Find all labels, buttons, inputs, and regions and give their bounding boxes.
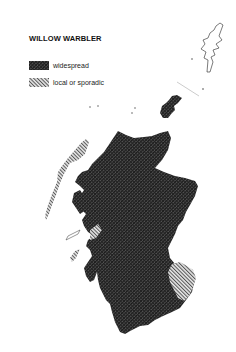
legend-item-local: local or sporadic [29,78,104,87]
orkney [160,95,182,118]
coll-tiree [70,249,80,262]
local-swatch-icon [29,78,49,87]
distribution-map [0,0,236,352]
legend-label-local: local or sporadic [53,79,104,86]
legend-label-widespread: widespread [53,62,89,69]
widespread-swatch-icon [29,61,49,70]
map-title: WILLOW WARBLER [29,34,102,43]
small-island-dots [89,88,204,114]
legend-item-widespread: widespread [29,61,89,70]
small-island-outline [66,230,80,240]
shetland-outline [201,23,223,72]
fair-isle-dot [191,58,193,60]
inset-boundary-line [177,82,199,96]
